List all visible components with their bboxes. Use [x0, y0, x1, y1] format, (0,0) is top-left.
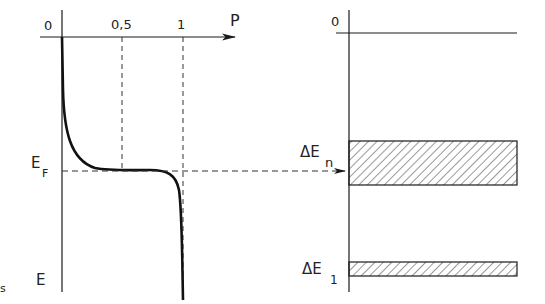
p-axis-label: P — [230, 11, 240, 30]
fermi-diagram: 0 0,5 1 P E F E s 0 ΔE n ΔE 1 — [0, 0, 545, 304]
band-n-label: ΔE — [300, 143, 320, 161]
left-plot: 0 0,5 1 P E F E s — [0, 10, 345, 300]
band-n-subscript: n — [325, 155, 333, 170]
tick-label-one: 1 — [177, 17, 185, 32]
right-plot: 0 ΔE n ΔE 1 — [300, 10, 517, 292]
origin-label-right: 0 — [331, 14, 339, 29]
corner-fragment: s — [0, 282, 6, 295]
band-1 — [349, 262, 517, 276]
fermi-energy-subscript: F — [42, 167, 48, 180]
fermi-energy-label: E — [31, 154, 40, 172]
band-n — [349, 141, 517, 185]
band-1-subscript: 1 — [330, 273, 338, 287]
band-1-label: ΔE — [302, 260, 322, 278]
energy-axis-label: E — [36, 271, 45, 289]
origin-label-left: 0 — [44, 18, 52, 33]
tick-label-half: 0,5 — [111, 17, 132, 32]
